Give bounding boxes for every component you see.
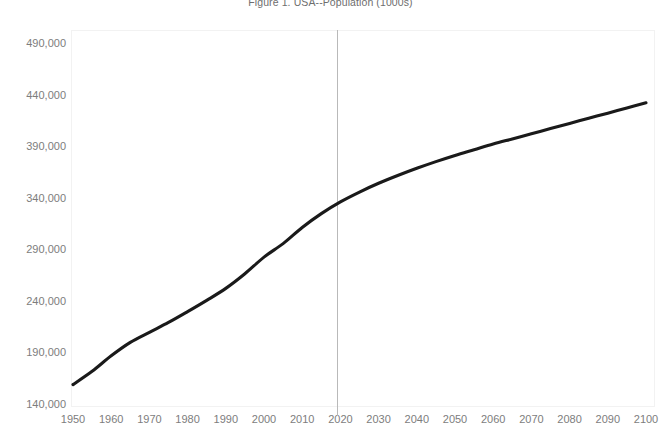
- population-line: [73, 103, 646, 385]
- series-layer: [0, 0, 661, 448]
- chart-figure: Figure 1. USA--Population (1000s) 140,00…: [0, 0, 661, 448]
